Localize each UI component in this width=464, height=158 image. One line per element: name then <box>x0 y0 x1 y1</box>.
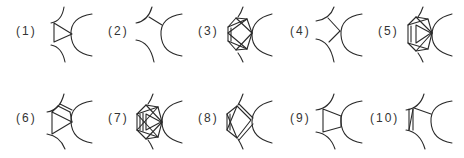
panel-label: (10) <box>370 111 399 125</box>
panel-label: (2) <box>108 24 129 38</box>
diagram-dense-hexagon-mesh <box>130 92 190 152</box>
diagram-single-bond <box>130 5 190 65</box>
panel-9: (9) <box>276 88 368 158</box>
panel-label: (4) <box>290 24 311 38</box>
panel-2: (2) <box>92 0 184 70</box>
diagram-quadrilateral <box>310 92 370 152</box>
diagram-triangle-double-edge <box>40 92 100 152</box>
panel-label: (3) <box>198 24 219 38</box>
panel-label: (6) <box>16 111 37 125</box>
panel-4: (4) <box>276 0 368 70</box>
panel-5: (5) <box>368 0 460 70</box>
panel-label: (8) <box>198 111 219 125</box>
panel-label: (5) <box>378 24 399 38</box>
diagram-hexagon-triangle-double-edge <box>400 5 460 65</box>
diagram-y-junction <box>310 5 370 65</box>
panel-label: (7) <box>108 111 129 125</box>
diagram-hexagon-inner-triangles <box>220 5 280 65</box>
panel-label: (1) <box>16 24 37 38</box>
panel-6: (6) <box>0 88 92 158</box>
diagram-triangle <box>40 5 100 65</box>
panel-8: (8) <box>184 88 276 158</box>
panel-1: (1) <box>0 0 92 70</box>
panel-10: (10) <box>368 88 460 158</box>
diagram-double-edge-single-bond <box>400 92 460 152</box>
panel-label: (9) <box>290 111 311 125</box>
panel-7: (7) <box>92 88 184 158</box>
diagram-pentagon-double-edges <box>220 92 280 152</box>
junction-diagram-figure: (1) (2) (3) <box>0 0 464 158</box>
panel-3: (3) <box>184 0 276 70</box>
